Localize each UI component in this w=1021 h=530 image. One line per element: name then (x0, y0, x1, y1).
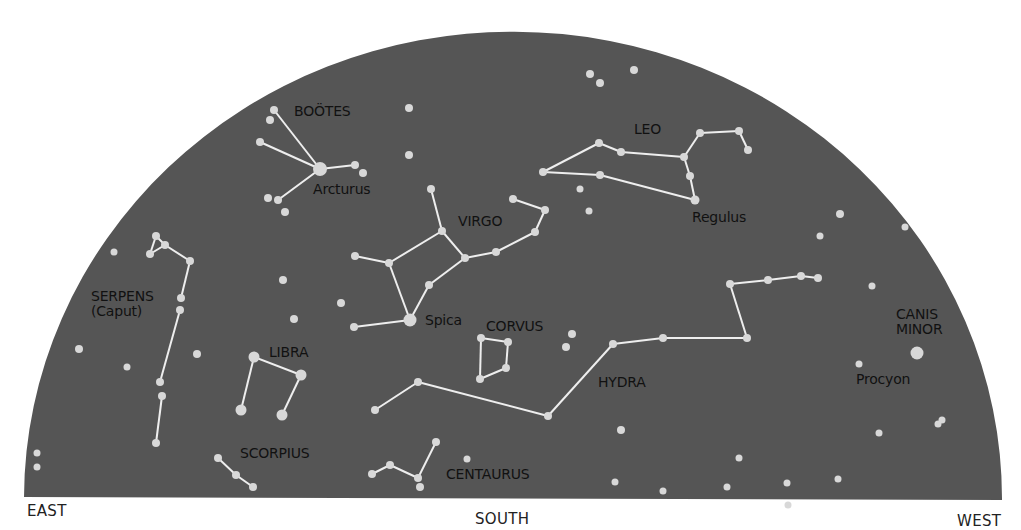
hydra-star (764, 276, 772, 284)
virgo-star (461, 254, 469, 262)
star-regulus-label: Regulus (692, 210, 746, 225)
libra-star (249, 352, 260, 363)
serpens-star (152, 439, 160, 447)
field-star (736, 455, 743, 462)
virgo-star (350, 323, 358, 331)
virgo-star (438, 227, 446, 235)
virgo-star (385, 259, 393, 267)
bootes-star (264, 194, 272, 202)
field-star (586, 208, 593, 215)
libra-star (236, 405, 247, 416)
hydra-star (797, 272, 805, 280)
corvus-line (480, 338, 481, 379)
serpens-star (152, 232, 160, 240)
leo-star (539, 168, 547, 176)
bootes-star (270, 106, 278, 114)
field-star (337, 299, 345, 307)
field-star (630, 66, 638, 74)
leo-star (617, 148, 625, 156)
hydra-star (609, 340, 617, 348)
sky-dome (24, 32, 1002, 500)
centaurus-star (432, 438, 440, 446)
star-procyon-label: Procyon (856, 372, 910, 387)
constellation-bootes-label: BOÖTES (294, 104, 350, 119)
field-star (75, 345, 83, 353)
field-star (660, 488, 667, 495)
star-chart (0, 0, 1021, 530)
bootes-star (313, 162, 327, 176)
field-star (817, 233, 824, 240)
field-star (562, 343, 570, 351)
field-star (290, 315, 298, 323)
hydra-star (726, 280, 734, 288)
centaurus-star (416, 483, 424, 491)
field-star (193, 350, 201, 358)
field-star (577, 186, 584, 193)
direction-west-label: WEST (957, 512, 1001, 530)
virgo-star (531, 228, 539, 236)
bootes-star (351, 161, 359, 169)
field-star (617, 426, 625, 434)
serpens-star (161, 241, 169, 249)
serpens-star (186, 257, 194, 265)
direction-south-label: SOUTH (475, 510, 529, 528)
serpens-star (176, 306, 184, 314)
leo-star (691, 196, 700, 205)
hydra-star (659, 334, 667, 342)
centaurus-star (414, 474, 422, 482)
hydra-star (544, 412, 552, 420)
field-star (785, 502, 792, 509)
hydra-star (743, 334, 751, 342)
hydra-star (414, 378, 422, 386)
serpens-star (177, 294, 185, 302)
corvus-star (477, 334, 485, 342)
field-star (596, 79, 604, 87)
virgo-star (351, 252, 359, 260)
constellation-scorpius-label: SCORPIUS (240, 446, 310, 461)
corvus-star (502, 364, 510, 372)
field-star (34, 450, 41, 457)
scorpius-star (214, 454, 222, 462)
serpens-star (156, 378, 164, 386)
leo-star (696, 129, 704, 137)
bootes-star (266, 116, 274, 124)
constellation-corvus-label: CORVUS (486, 319, 543, 334)
field-star (124, 364, 131, 371)
constellation-canis-minor-label: CANIS MINOR (896, 307, 942, 337)
centaurus-star (386, 461, 394, 469)
field-star (568, 330, 576, 338)
field-star (586, 70, 594, 78)
virgo-star (509, 195, 517, 203)
star-spica-label: Spica (425, 313, 462, 328)
serpens-star (146, 250, 154, 258)
libra-star (277, 410, 288, 421)
constellation-leo-label: LEO (634, 122, 661, 137)
constellation-hydra-label: HYDRA (598, 375, 646, 390)
libra-star (296, 370, 307, 381)
virgo-star (404, 314, 417, 327)
field-star (34, 464, 41, 471)
hydra-star (371, 406, 379, 414)
canis-minor-star (856, 361, 863, 368)
bootes-star (274, 196, 282, 204)
constellation-centaurus-label: CENTAURUS (446, 467, 529, 482)
leo-star (680, 153, 688, 161)
direction-east-label: EAST (27, 502, 67, 520)
leo-star (735, 127, 743, 135)
field-star (464, 456, 471, 463)
field-star (724, 484, 731, 491)
corvus-star (476, 375, 484, 383)
serpens-star (158, 392, 166, 400)
field-star (869, 283, 876, 290)
bootes-star (359, 169, 367, 177)
virgo-star (425, 281, 433, 289)
constellation-libra-label: LIBRA (269, 345, 308, 360)
canis-minor-star (911, 347, 924, 360)
field-star (612, 479, 619, 486)
hydra-star (814, 274, 822, 282)
field-star (279, 276, 287, 284)
virgo-star (541, 206, 549, 214)
field-star (939, 417, 946, 424)
virgo-star (492, 248, 500, 256)
constellation-virgo-label: VIRGO (458, 214, 502, 229)
